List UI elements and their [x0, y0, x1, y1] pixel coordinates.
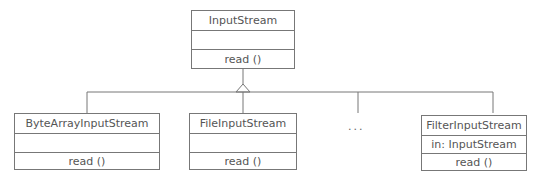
class-attributes: [192, 30, 294, 49]
generalization-arrowhead-icon: [236, 84, 250, 92]
class-inputstream: InputStream read (): [191, 10, 295, 69]
class-name: ByteArrayInputStream: [15, 114, 159, 133]
class-attributes: in: InputStream: [422, 135, 526, 153]
class-name: FilterInputStream: [422, 116, 526, 135]
class-bytearrayinputstream: ByteArrayInputStream read (): [14, 113, 160, 170]
class-name: InputStream: [192, 11, 294, 30]
ellipsis: ...: [348, 120, 365, 133]
class-operations: read (): [192, 49, 294, 68]
class-operations: read (): [190, 152, 296, 169]
class-name: FileInputStream: [190, 114, 296, 133]
class-operations: read (): [15, 152, 159, 169]
class-fileinputstream: FileInputStream read (): [189, 113, 297, 170]
class-filterinputstream: FilterInputStream in: InputStream read (…: [421, 115, 527, 171]
class-operations: read (): [422, 153, 526, 170]
class-attributes: [190, 133, 296, 152]
class-attributes: [15, 133, 159, 152]
